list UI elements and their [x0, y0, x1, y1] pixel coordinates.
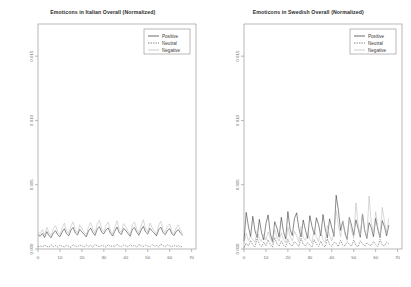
y-tick-label: 0.000	[29, 243, 34, 255]
y-tick-label: 0.015	[235, 50, 240, 62]
x-tick-label: 70	[395, 255, 400, 260]
x-tick-label: 10	[57, 255, 62, 260]
line-chart-swedish: 0.0000.0050.0100.015010203040506070Posit…	[206, 0, 411, 287]
x-tick-label: 10	[263, 255, 268, 260]
y-tick-label: 0.015	[29, 50, 34, 62]
x-tick-label: 30	[307, 255, 312, 260]
figure-container: Emoticons in Italian Overall (Normalized…	[0, 0, 411, 287]
x-tick-label: 60	[373, 255, 378, 260]
x-tick-label: 50	[351, 255, 356, 260]
y-tick-label: 0.000	[235, 243, 240, 255]
x-tick-label: 0	[242, 255, 245, 260]
chart-legend: PositiveNeutralNegative	[144, 29, 190, 54]
x-tick-label: 20	[79, 255, 84, 260]
y-tick-label: 0.010	[29, 114, 34, 126]
series-line-neutral	[38, 244, 183, 247]
chart-panel-swedish: Emoticons in Swedish Overall (Normalized…	[206, 0, 411, 287]
series-line-positive	[38, 226, 183, 237]
x-tick-label: 20	[285, 255, 290, 260]
legend-label-neutral: Neutral	[368, 41, 383, 46]
x-tick-label: 0	[37, 255, 40, 260]
x-tick-label: 40	[123, 255, 128, 260]
chart-panel-italian: Emoticons in Italian Overall (Normalized…	[0, 0, 206, 287]
legend-label-positive: Positive	[368, 34, 385, 39]
x-tick-label: 70	[189, 255, 194, 260]
legend-label-neutral: Neutral	[162, 41, 177, 46]
y-tick-label: 0.005	[29, 179, 34, 191]
x-tick-label: 60	[167, 255, 172, 260]
legend-label-negative: Negative	[368, 48, 387, 53]
line-chart-italian: 0.0000.0050.0100.015010203040506070Posit…	[0, 0, 206, 287]
plot-border	[38, 24, 196, 249]
x-tick-label: 40	[329, 255, 334, 260]
x-tick-label: 50	[145, 255, 150, 260]
legend-label-positive: Positive	[162, 34, 179, 39]
chart-legend: PositiveNeutralNegative	[350, 29, 396, 54]
legend-label-negative: Negative	[162, 48, 181, 53]
y-tick-label: 0.010	[235, 114, 240, 126]
y-tick-label: 0.005	[235, 179, 240, 191]
x-tick-label: 30	[101, 255, 106, 260]
